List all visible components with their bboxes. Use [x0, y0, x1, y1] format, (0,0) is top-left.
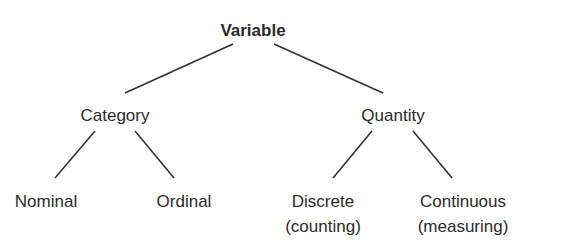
node-label: Discrete	[285, 189, 361, 214]
edge-category-ordinal	[135, 131, 174, 178]
node-variable: Variable	[220, 18, 285, 43]
edge-quantity-continuous	[413, 131, 452, 178]
edge-category-nominal	[55, 131, 95, 178]
node-discrete: Discrete (counting)	[285, 189, 361, 239]
node-label: Ordinal	[157, 189, 212, 214]
node-label: Category	[81, 103, 150, 128]
node-ordinal: Ordinal	[157, 189, 212, 214]
node-label: Variable	[220, 18, 285, 43]
edge-root-quantity	[274, 44, 383, 93]
node-label: Quantity	[361, 103, 424, 128]
node-quantity: Quantity	[361, 103, 424, 128]
node-label: Continuous	[418, 189, 509, 214]
variable-types-tree-diagram: Variable Category Quantity Nominal Ordin…	[0, 0, 577, 248]
node-sublabel: (counting)	[285, 214, 361, 239]
node-category: Category	[81, 103, 150, 128]
node-nominal: Nominal	[15, 189, 77, 214]
node-label: Nominal	[15, 189, 77, 214]
edge-root-category	[125, 44, 233, 93]
node-sublabel: (measuring)	[418, 214, 509, 239]
node-continuous: Continuous (measuring)	[418, 189, 509, 239]
edge-quantity-discrete	[333, 131, 372, 178]
